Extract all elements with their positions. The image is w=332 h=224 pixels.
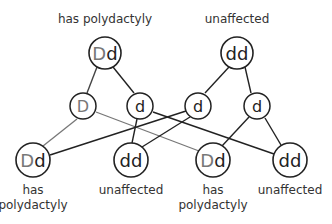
gamete-node-4: d <box>244 93 270 119</box>
offspring-1-phenotype-line1: has <box>0 183 73 198</box>
gamete-node-2: d <box>127 93 153 119</box>
offspring-2-phenotype: unaffected <box>91 183 171 198</box>
allele-D: D <box>77 97 89 116</box>
edge-parent2-gamete-d1 <box>205 67 229 93</box>
allele-d: d <box>290 150 301 171</box>
edge-gamete-d-offspring2 <box>132 119 137 143</box>
allele-d: d <box>34 150 45 171</box>
parent-node-1: Dd <box>89 37 121 69</box>
allele-d: d <box>106 43 117 64</box>
allele-d: d <box>120 150 131 171</box>
allele-d: d <box>135 97 145 116</box>
svg-text:Dd: Dd <box>92 43 117 64</box>
offspring-3-phenotype-line1: has <box>173 183 253 198</box>
offspring-node-3: Dd <box>196 143 230 177</box>
gamete-node-1: D <box>70 93 96 119</box>
allele-d: d <box>131 150 142 171</box>
parent-2-phenotype: unaffected <box>187 12 287 27</box>
svg-text:Dd: Dd <box>20 150 45 171</box>
gamete-node-3: d <box>185 93 211 119</box>
allele-D: D <box>20 150 34 171</box>
offspring-node-4: dd <box>273 143 307 177</box>
offspring-1-phenotype-line2: polydactyly <box>0 198 73 213</box>
svg-text:Dd: Dd <box>200 150 225 171</box>
offspring-node-2: dd <box>114 143 148 177</box>
allele-d: d <box>226 43 237 64</box>
offspring-1-phenotype: has polydactyly <box>0 183 73 213</box>
edge-gameteD-offspring1 <box>43 119 77 146</box>
allele-d: d <box>193 97 203 116</box>
edge-parent1-gameteD <box>87 67 97 93</box>
parent-node-2: dd <box>221 37 253 69</box>
edge-gamete-d2-offspring4 <box>265 118 281 145</box>
offspring-4-phenotype-line1: unaffected <box>250 183 330 198</box>
edge-gameteD-offspring3 <box>96 112 199 151</box>
allele-d: d <box>252 97 262 116</box>
allele-D: D <box>92 43 106 64</box>
edge-parent1-gamete-d <box>113 67 134 93</box>
svg-text:dd: dd <box>279 150 302 171</box>
allele-d: d <box>237 43 248 64</box>
offspring-4-phenotype: unaffected <box>250 183 330 198</box>
allele-d: d <box>214 150 225 171</box>
edge-parent2-gamete-d2 <box>245 67 251 93</box>
allele-D: D <box>200 150 214 171</box>
offspring-3-phenotype: has polydactyly <box>173 183 253 213</box>
svg-text:dd: dd <box>120 150 143 171</box>
parent-1-phenotype: has polydactyly <box>55 12 155 27</box>
offspring-2-phenotype-line1: unaffected <box>91 183 171 198</box>
svg-text:dd: dd <box>226 43 249 64</box>
edge-gamete-d2-offspring3 <box>222 117 249 146</box>
offspring-3-phenotype-line2: polydactyly <box>173 198 253 213</box>
offspring-node-1: Dd <box>16 143 50 177</box>
allele-d: d <box>279 150 290 171</box>
